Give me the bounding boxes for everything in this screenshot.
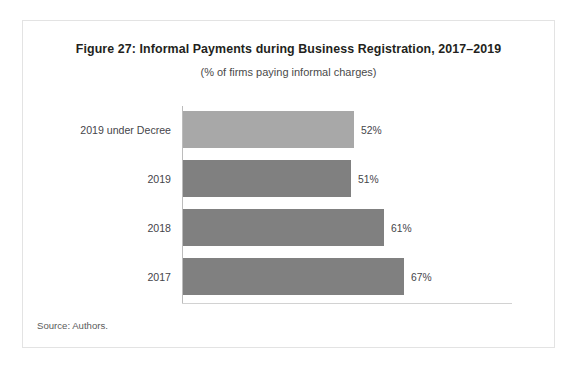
bar-rect	[183, 258, 404, 295]
bar-value-label: 52%	[361, 124, 382, 135]
bar-row: 2017 67%	[23, 258, 554, 295]
bar-row: 2019 51%	[23, 160, 554, 197]
bar-rect	[183, 111, 354, 148]
figure-card: Figure 27: Informal Payments during Busi…	[22, 20, 555, 348]
bar-category-label: 2019	[23, 173, 171, 185]
bar-category-label: 2019 under Decree	[23, 124, 171, 136]
x-axis-line	[182, 303, 512, 304]
bar-rect	[183, 209, 384, 246]
source-note: Source: Authors.	[37, 320, 108, 331]
bar-category-label: 2018	[23, 222, 171, 234]
bar-category-label: 2017	[23, 271, 171, 283]
bar-row: 2018 61%	[23, 209, 554, 246]
bar-row: 2019 under Decree 52%	[23, 111, 554, 148]
bar-value-label: 67%	[411, 271, 432, 282]
chart-plot-area: 2019 under Decree 52% 2019 51% 2018 61% …	[23, 21, 554, 347]
bar-value-label: 51%	[358, 173, 379, 184]
bar-value-label: 61%	[391, 222, 412, 233]
bar-rect	[183, 160, 351, 197]
